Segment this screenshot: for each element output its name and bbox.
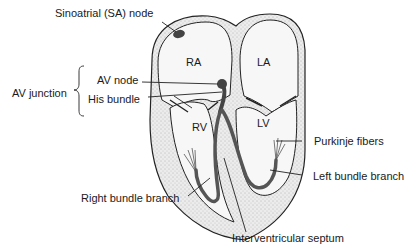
label-his-bundle: His bundle	[88, 94, 140, 105]
av-junction-brace	[74, 66, 84, 116]
label-left-bundle-branch: Left bundle branch	[313, 171, 404, 182]
chamber-label-ra: RA	[186, 57, 201, 68]
chamber-label-lv: LV	[257, 118, 270, 129]
label-purkinje-fibers: Purkinje fibers	[314, 136, 384, 147]
label-interventricular-septum: Interventricular septum	[232, 233, 344, 244]
label-av-node: AV node	[97, 75, 138, 86]
label-av-junction: AV junction	[12, 88, 67, 99]
chamber-label-la: LA	[257, 57, 270, 68]
label-right-bundle-branch: Right bundle branch	[81, 193, 179, 204]
label-sa-node: Sinoatrial (SA) node	[55, 8, 153, 19]
heart-diagram	[0, 0, 416, 248]
chamber-label-rv: RV	[192, 122, 207, 133]
